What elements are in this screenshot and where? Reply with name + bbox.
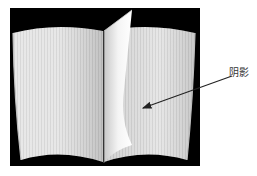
shadow-label: 阴影	[229, 64, 249, 79]
book-illustration	[0, 0, 257, 176]
